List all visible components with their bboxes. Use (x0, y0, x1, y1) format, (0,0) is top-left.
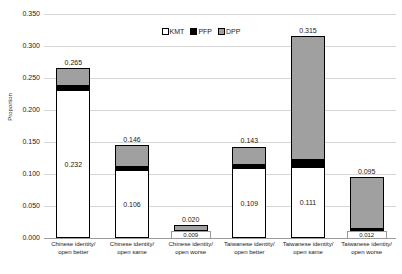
legend-label: KMT (170, 28, 185, 35)
bar-segment-pfp[interactable] (291, 160, 325, 167)
gridline (44, 238, 396, 239)
bar-segment-dpp[interactable] (56, 68, 90, 86)
plot-area: 0.2650.2320.1460.1060.0200.0090.1430.109… (44, 14, 396, 238)
bar-segment-dpp[interactable] (350, 177, 384, 229)
bar-kmt-label: 0.012 (347, 231, 387, 239)
y-axis-tick-labels: 0.3500.3000.2500.2000.1500.1000.0500.000 (0, 14, 44, 238)
bar-group[interactable]: 0.1430.109 (232, 14, 266, 238)
bar-total-label: 0.020 (166, 216, 216, 223)
x-axis-category-line: Taiwanese identity/ (220, 240, 278, 248)
legend-swatch-icon (218, 28, 225, 35)
bar-segment-dpp[interactable] (115, 145, 149, 167)
bar-segment-dpp[interactable] (232, 147, 266, 166)
bar-kmt-label: 0.111 (291, 199, 325, 206)
bar-segment-dpp[interactable] (291, 36, 325, 160)
x-axis-category-labels: Chinese identity/open betterChinese iden… (44, 240, 396, 274)
x-axis-category-line: open worse (338, 248, 396, 256)
gridline (44, 206, 396, 207)
gridline (44, 14, 396, 15)
x-axis-category-label: Taiwanese identity/open same (279, 240, 337, 256)
y-axis-tick-label: 0.100 (0, 170, 40, 177)
x-axis-category-label: Chinese identity/open better (44, 240, 102, 256)
x-axis-category-label: Taiwanese identity/open worse (338, 240, 396, 256)
gridline (44, 78, 396, 79)
chart-legend: KMTPFPDPP (0, 28, 402, 35)
gridline (44, 142, 396, 143)
x-axis-category-line: Chinese identity/ (103, 240, 161, 248)
x-axis-category-line: open same (103, 248, 161, 256)
bar-kmt-label: 0.109 (232, 200, 266, 207)
legend-swatch-icon (190, 28, 197, 35)
y-axis-tick-label: 0.300 (0, 42, 40, 49)
x-axis-category-label: Taiwanese identity/open better (220, 240, 278, 256)
legend-item-dpp[interactable]: DPP (218, 28, 240, 35)
bar-total-label: 0.143 (224, 137, 274, 144)
x-axis-category-line: open same (279, 248, 337, 256)
x-axis-category-line: open worse (162, 248, 220, 256)
bar-total-label: 0.095 (342, 168, 392, 175)
bar-group[interactable]: 0.0200.009 (174, 14, 208, 238)
bar-segment-pfp[interactable] (232, 165, 266, 168)
gridline (44, 110, 396, 111)
x-axis-category-line: open better (44, 248, 102, 256)
bar-group[interactable]: 0.1460.106 (115, 14, 149, 238)
bar-stack[interactable] (291, 36, 325, 238)
chart-title (0, 0, 402, 6)
y-axis-tick-label: 0.000 (0, 234, 40, 241)
y-axis-tick-label: 0.350 (0, 10, 40, 17)
stacked-bar-chart: Proportion 0.3500.3000.2500.2000.1500.10… (0, 0, 402, 274)
legend-label: DPP (226, 28, 240, 35)
bar-segment-pfp[interactable] (115, 167, 149, 170)
bar-stack[interactable] (115, 145, 149, 238)
bar-group[interactable]: 0.3150.111 (291, 14, 325, 238)
x-axis-category-line: Chinese identity/ (44, 240, 102, 248)
legend-swatch-icon (162, 28, 169, 35)
x-axis-category-line: Taiwanese identity/ (279, 240, 337, 248)
bar-group[interactable]: 0.2650.232 (56, 14, 90, 238)
x-axis-category-line: Taiwanese identity/ (338, 240, 396, 248)
bar-stack[interactable] (56, 68, 90, 238)
y-axis-tick-label: 0.050 (0, 202, 40, 209)
bar-stack[interactable] (350, 177, 384, 238)
bar-kmt-label: 0.232 (56, 161, 90, 168)
bar-kmt-label: 0.106 (115, 201, 149, 208)
bar-total-label: 0.265 (48, 59, 98, 66)
gridline (44, 46, 396, 47)
bar-group[interactable]: 0.0950.012 (350, 14, 384, 238)
y-axis-tick-label: 0.200 (0, 106, 40, 113)
y-axis-tick-label: 0.150 (0, 138, 40, 145)
x-axis-category-line: open better (220, 248, 278, 256)
bar-stack[interactable] (232, 146, 266, 238)
bar-total-label: 0.146 (107, 136, 157, 143)
legend-label: PFP (198, 28, 212, 35)
x-axis-category-label: Chinese identity/open worse (162, 240, 220, 256)
legend-item-kmt[interactable]: KMT (162, 28, 185, 35)
y-axis-tick-label: 0.250 (0, 74, 40, 81)
x-axis-category-line: Chinese identity/ (162, 240, 220, 248)
x-axis-category-label: Chinese identity/open same (103, 240, 161, 256)
bar-kmt-label: 0.009 (171, 231, 211, 239)
legend-item-pfp[interactable]: PFP (190, 28, 212, 35)
bar-segment-pfp[interactable] (56, 86, 90, 89)
